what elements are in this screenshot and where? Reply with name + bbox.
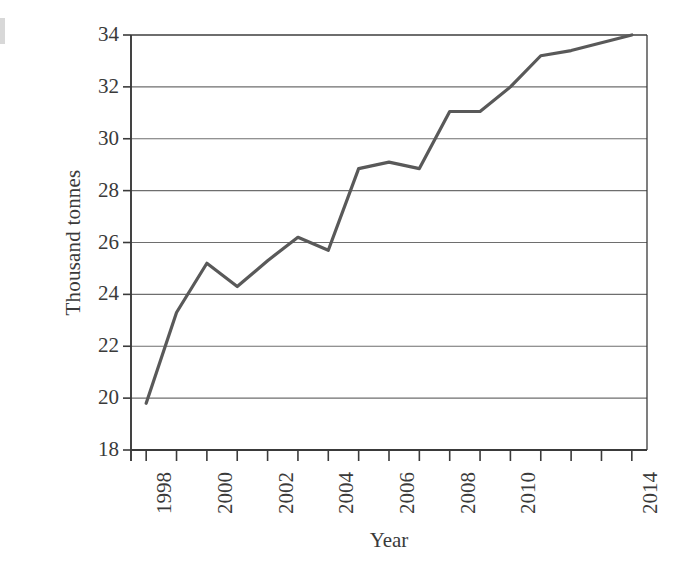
x-tick-label-2008: 2008 [458, 472, 479, 514]
y-tick-label-28: 28 [75, 180, 119, 201]
axis-lines [131, 35, 647, 461]
y-tick-label-24: 24 [75, 283, 119, 304]
x-tick-label-2004: 2004 [336, 472, 357, 514]
x-tick-label-2006: 2006 [397, 472, 418, 514]
x-axis-ticks [146, 450, 632, 461]
x-tick-label-1998: 1998 [154, 472, 175, 514]
y-axis-ticks [123, 35, 131, 450]
data-series-line [146, 35, 632, 403]
y-tick-label-32: 32 [75, 76, 119, 97]
gridlines [131, 35, 647, 450]
y-tick-label-22: 22 [75, 335, 119, 356]
y-tick-label-30: 30 [75, 128, 119, 149]
y-tick-label-34: 34 [75, 24, 119, 45]
x-tick-label-2014: 2014 [640, 472, 661, 514]
x-tick-label-2010: 2010 [518, 472, 539, 514]
y-tick-label-20: 20 [75, 387, 119, 408]
y-tick-label-26: 26 [75, 232, 119, 253]
x-tick-label-2000: 2000 [215, 472, 236, 514]
x-tick-label-2002: 2002 [276, 472, 297, 514]
chart-figure: Thousand tonnes Year 182022242628303234 … [0, 0, 679, 587]
y-tick-label-18: 18 [75, 439, 119, 460]
